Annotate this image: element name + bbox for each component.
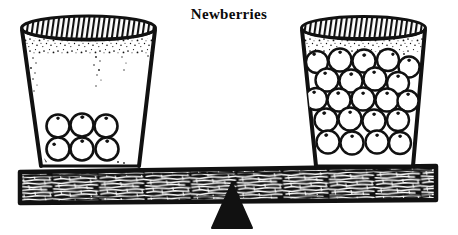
right-glass-berries xyxy=(305,49,420,155)
left-glass xyxy=(18,16,160,166)
newberries-illustration: Newberries xyxy=(0,0,458,235)
left-glass-berries xyxy=(47,114,119,161)
right-glass xyxy=(298,17,430,167)
balance-scale-drawing xyxy=(0,0,458,235)
